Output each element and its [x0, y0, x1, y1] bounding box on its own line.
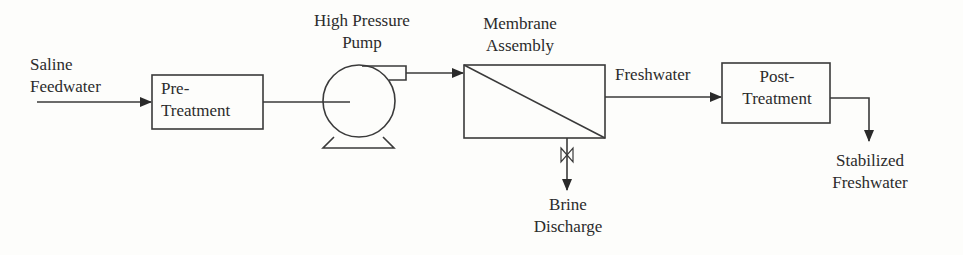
pump-icon: [323, 65, 406, 148]
brine-label-line2: Discharge: [518, 216, 618, 238]
saline-label-line2: Feedwater: [30, 76, 101, 98]
membrane-label-line1: Membrane: [470, 13, 570, 35]
stabilized-label-line2: Freshwater: [820, 172, 920, 194]
pretreat-label-line2: Treatment: [161, 100, 230, 122]
saline-label-line1: Saline: [30, 54, 101, 76]
brine-discharge-label: Brine Discharge: [518, 194, 618, 238]
posttreat-label-line2: Treatment: [728, 88, 826, 110]
post-treatment-label: Post- Treatment: [728, 66, 826, 110]
pump-label-line1: High Pressure: [292, 10, 432, 32]
membrane-icon: [464, 65, 605, 138]
membrane-label: Membrane Assembly: [470, 13, 570, 57]
stabilized-label-line1: Stabilized: [820, 150, 920, 172]
brine-label-line1: Brine: [518, 194, 618, 216]
posttreat-label-line1: Post-: [728, 66, 826, 88]
stabilized-output-line: [830, 98, 869, 141]
pump-label-line2: Pump: [292, 32, 432, 54]
pre-treatment-label: Pre- Treatment: [161, 78, 230, 122]
membrane-label-line2: Assembly: [470, 35, 570, 57]
freshwater-label: Freshwater: [615, 64, 691, 86]
stabilized-freshwater-label: Stabilized Freshwater: [820, 150, 920, 194]
saline-feedwater-label: Saline Feedwater: [30, 54, 101, 98]
pretreat-label-line1: Pre-: [161, 78, 230, 100]
process-flow-diagram: Saline Feedwater Pre- Treatment High Pre…: [0, 0, 963, 255]
pump-label: High Pressure Pump: [292, 10, 432, 54]
